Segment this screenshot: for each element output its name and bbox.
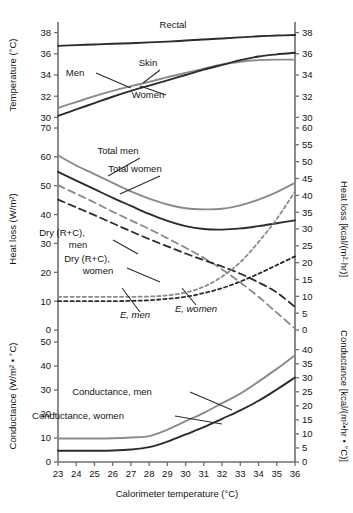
svg-text:10: 10 [40,296,51,307]
svg-text:0: 0 [46,456,51,467]
svg-text:26: 26 [107,468,118,479]
svg-text:30: 30 [40,384,51,395]
series-annotation-label: E, men [120,309,150,320]
svg-text:23: 23 [53,468,64,479]
svg-text:36: 36 [290,468,301,479]
series-annotation-label: women [82,265,114,276]
svg-text:Conductance (W/m² • °C): Conductance (W/m² • °C) [7,343,18,450]
svg-text:36: 36 [302,48,313,59]
svg-text:40: 40 [40,209,51,220]
svg-text:Heat loss [kcal/(m²·hr)]: Heat loss [kcal/(m²·hr)] [339,181,350,277]
svg-text:5: 5 [302,442,307,453]
svg-text:38: 38 [302,27,313,38]
svg-text:34: 34 [40,69,51,80]
svg-text:35: 35 [302,358,313,369]
svg-text:38: 38 [40,27,51,38]
svg-text:30: 30 [40,112,51,123]
svg-text:25: 25 [302,240,313,251]
series-annotation-label: Dry (R+C), [64,253,110,264]
svg-text:25: 25 [89,468,100,479]
series-annotation-label: Conductance, women [32,410,124,421]
svg-text:30: 30 [302,372,313,383]
svg-text:25: 25 [302,386,313,397]
svg-text:60: 60 [40,151,51,162]
svg-text:10: 10 [40,432,51,443]
svg-text:0: 0 [302,324,307,335]
svg-text:32: 32 [302,91,313,102]
svg-text:10: 10 [302,428,313,439]
svg-text:40: 40 [302,344,313,355]
svg-text:33: 33 [235,468,246,479]
svg-text:15: 15 [302,274,313,285]
svg-text:45: 45 [302,173,313,184]
svg-text:27: 27 [126,468,137,479]
leader-line [113,240,138,254]
svg-text:0: 0 [46,324,51,335]
svg-text:40: 40 [40,360,51,371]
leader-line [96,73,131,88]
series-annotation-label: Skin [139,57,157,68]
series-curve [58,172,295,230]
svg-text:36: 36 [40,48,51,59]
svg-text:20: 20 [302,400,313,411]
leader-line-layer [96,70,232,424]
series-curve [58,53,295,116]
svg-text:60: 60 [302,122,313,133]
svg-text:50: 50 [40,180,51,191]
svg-text:35: 35 [302,207,313,218]
svg-text:34: 34 [302,69,313,80]
svg-text:30: 30 [40,238,51,249]
svg-text:35: 35 [271,468,282,479]
svg-text:Heat loss (W/m²): Heat loss (W/m²) [7,193,18,264]
series-annotation-label: Women [132,89,165,100]
series-curve [58,35,295,46]
svg-text:29: 29 [162,468,173,479]
svg-text:15: 15 [302,414,313,425]
svg-text:20: 20 [40,267,51,278]
x-axis-title: Calorimeter temperature (°C) [116,488,239,499]
series-curve [58,60,295,108]
svg-text:20: 20 [302,257,313,268]
svg-text:30: 30 [180,468,191,479]
svg-text:40: 40 [302,190,313,201]
svg-text:32: 32 [40,91,51,102]
svg-text:55: 55 [302,139,313,150]
figure-panel-chart: 30323436383032343638Temperature (°C)0102… [0,0,353,513]
svg-text:50: 50 [40,336,51,347]
svg-text:30: 30 [302,112,313,123]
leader-line [120,176,160,194]
svg-text:32: 32 [217,468,228,479]
svg-text:24: 24 [71,468,82,479]
svg-text:30: 30 [302,223,313,234]
series-annotation-label: men [69,239,87,250]
svg-text:31: 31 [199,468,210,479]
multi-panel-line-chart: 30323436383032343638Temperature (°C)0102… [0,0,353,513]
svg-text:34: 34 [253,468,264,479]
series-annotation-label: Total men [97,145,138,156]
series-annotation-label: Conductance, men [72,386,152,397]
svg-text:70: 70 [40,122,51,133]
leader-line [127,268,160,282]
svg-text:Temperature (°C): Temperature (°C) [7,39,18,112]
svg-text:28: 28 [144,468,155,479]
annotation-layer: RectalSkinMenWomenTotal menTotal womenDr… [32,19,217,421]
svg-text:0: 0 [302,456,307,467]
svg-text:Conductance [kcal/(m²•hr • °C): Conductance [kcal/(m²•hr • °C)] [339,330,350,462]
svg-text:50: 50 [302,156,313,167]
series-annotation-label: Men [66,67,84,78]
series-annotation-label: Rectal [160,19,187,30]
svg-text:10: 10 [302,291,313,302]
svg-text:5: 5 [302,308,307,319]
series-annotation-label: Total women [108,163,161,174]
series-annotation-label: Dry (R+C), [39,227,85,238]
